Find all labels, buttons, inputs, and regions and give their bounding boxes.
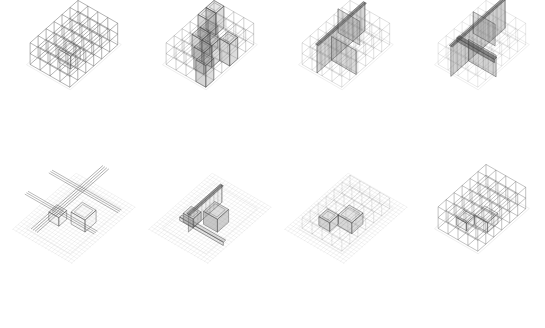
- isometric-drawing: [272, 164, 408, 328]
- panel-b4-grid-with-volumes: [408, 164, 544, 328]
- isometric-drawing: [0, 164, 136, 328]
- panel-b3-dense-grid-volumes: [272, 164, 408, 328]
- isometric-drawing: [136, 164, 272, 328]
- isometric-drawing: [0, 0, 136, 164]
- panel-b2-solid-volumes: [136, 164, 272, 328]
- panel-b1-line-bundles: [0, 164, 136, 328]
- panel-a2-shaded-cells: [136, 0, 272, 164]
- isometric-drawing: [408, 164, 544, 328]
- panel-a3-intersecting-walls: [272, 0, 408, 164]
- panel-a4-walls-and-beam: [408, 0, 544, 164]
- panel-a1-base-grid: [0, 0, 136, 164]
- isometric-drawing: [136, 0, 272, 164]
- isometric-drawing: [408, 0, 544, 164]
- isometric-drawing: [272, 0, 408, 164]
